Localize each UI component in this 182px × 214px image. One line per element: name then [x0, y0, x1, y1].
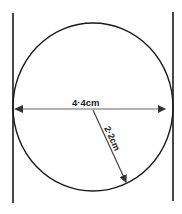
- radius-label: 2·2cm: [102, 125, 122, 153]
- circle-diagram: 4·4cm 2·2cm: [0, 0, 182, 214]
- diameter-label: 4·4cm: [72, 97, 99, 108]
- diameter-arrow-left-head: [14, 105, 23, 113]
